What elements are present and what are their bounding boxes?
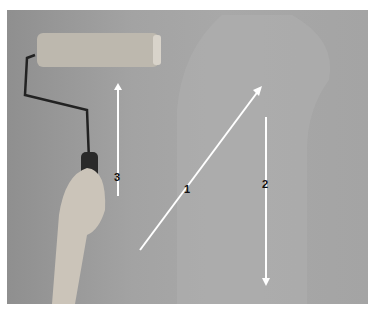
- photo: 1 2 3: [7, 10, 368, 304]
- scene: [7, 10, 368, 304]
- arrow-label-1: 1: [184, 183, 190, 195]
- arrow-label-3: 3: [114, 171, 120, 183]
- arrow-label-2: 2: [262, 178, 268, 190]
